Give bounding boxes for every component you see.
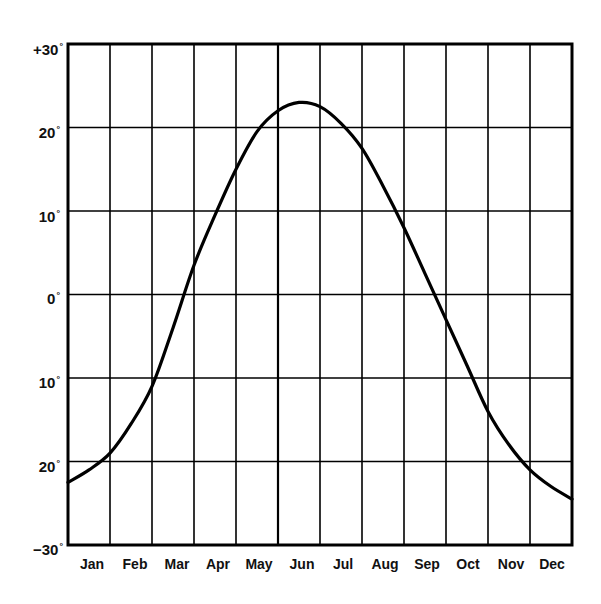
x-tick-label-feb: Feb <box>113 556 157 572</box>
x-tick-label-jun: Jun <box>280 556 324 572</box>
x-tick-label-sep: Sep <box>405 556 449 572</box>
y-tick-label: 10° <box>0 371 60 391</box>
x-tick-label-aug: Aug <box>363 556 407 572</box>
x-tick-label-may: May <box>237 556 281 572</box>
x-tick-label-mar: Mar <box>155 556 199 572</box>
x-tick-label-dec: Dec <box>530 556 574 572</box>
y-tick-label: +30° <box>3 38 63 58</box>
y-tick-label: −30° <box>3 538 63 558</box>
x-tick-label-jan: Jan <box>70 556 114 572</box>
y-tick-label: 10° <box>0 205 60 225</box>
x-tick-label-apr: Apr <box>196 556 240 572</box>
x-tick-label-nov: Nov <box>489 556 533 572</box>
chart-plot-area <box>0 0 601 604</box>
x-tick-label-oct: Oct <box>446 556 490 572</box>
y-tick-label: 0° <box>0 287 60 307</box>
x-tick-label-jul: Jul <box>321 556 365 572</box>
grid-lines <box>68 44 572 545</box>
y-tick-label: 20° <box>0 121 60 141</box>
y-tick-label: 20° <box>0 455 60 475</box>
